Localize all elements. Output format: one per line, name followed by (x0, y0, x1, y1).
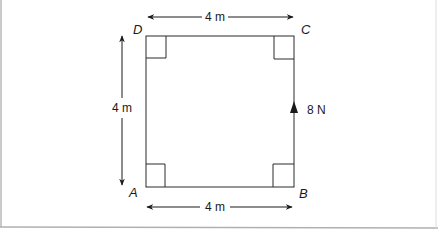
force-arrow-icon (290, 101, 298, 113)
vertex-label-c: C (301, 22, 311, 37)
square-diagram: 4 m 4 m 4 m 8 N D C A B (0, 0, 438, 231)
force-label: 8 N (307, 103, 326, 117)
bottom-dimension-label: 4 m (205, 200, 225, 214)
frame-bottom-border (0, 227, 438, 228)
vertex-label-b: B (299, 186, 308, 201)
right-angle-marker-d (146, 36, 166, 58)
right-angle-marker-b (273, 164, 294, 187)
right-angle-marker-a (146, 164, 165, 187)
vertex-label-d: D (133, 22, 142, 37)
left-dimension-label: 4 m (112, 101, 132, 115)
diagram-frame: 4 m 4 m 4 m 8 N D C A B (0, 0, 438, 231)
right-angle-marker-c (274, 36, 294, 59)
square-abcd (146, 36, 294, 187)
top-dimension-label: 4 m (205, 10, 225, 24)
vertex-label-a: A (128, 185, 138, 200)
